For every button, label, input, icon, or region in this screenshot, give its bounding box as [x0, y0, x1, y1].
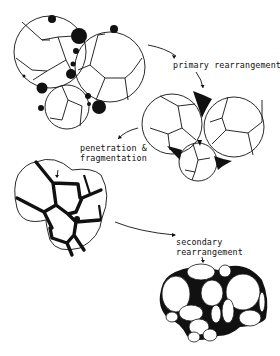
stage-2-droplets	[142, 91, 264, 181]
arrow-secondary	[115, 222, 175, 235]
stage-3-fragments	[15, 159, 107, 255]
stage-1-particles	[23, 15, 119, 114]
label-penetration: penetration &	[80, 143, 147, 153]
diagram-canvas	[0, 0, 280, 356]
label-primary-rearrangement: primary rearrangement	[173, 60, 280, 70]
arrow-primary	[148, 45, 176, 56]
label-fragmentation: fragmentation	[80, 153, 147, 163]
stage-4-cluster	[160, 264, 268, 342]
label-secondary: secondary	[176, 237, 222, 247]
label-rearrangement: rearrangement	[176, 247, 243, 257]
